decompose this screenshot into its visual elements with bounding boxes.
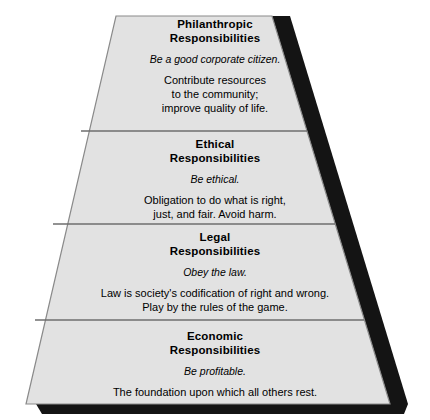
- tier-ethical-tagline: Be ethical.: [0, 173, 430, 186]
- tier-legal-detail-line2: Play by the rules of the game.: [142, 301, 288, 313]
- tier-economic-title: Economic Responsibilities: [0, 330, 430, 357]
- tier-legal-tagline: Obey the law.: [0, 266, 430, 279]
- tier-ethical-title-line1: Ethical: [196, 138, 235, 150]
- tier-philanthropic-detail-line1: Contribute resources: [164, 74, 266, 86]
- tier-philanthropic-detail: Contribute resources to the community; i…: [0, 73, 430, 115]
- tier-legal-title: Legal Responsibilities: [0, 231, 430, 258]
- tier-philanthropic-detail-line2: to the community;: [172, 88, 259, 100]
- tier-legal-detail: Law is society's codification of right a…: [0, 286, 430, 314]
- tier-ethical-title-line2: Responsibilities: [170, 152, 261, 164]
- pyramid-tier-labels: Philanthropic Responsibilities Be a good…: [0, 0, 430, 420]
- tier-ethical-detail-line1: Obligation to do what is right,: [144, 194, 286, 206]
- pyramid-base-shadow: [36, 404, 408, 414]
- tier-ethical-detail: Obligation to do what is right, just, an…: [0, 193, 430, 221]
- tier-philanthropic[interactable]: Philanthropic Responsibilities Be a good…: [0, 18, 430, 115]
- pyramid-diagram: Philanthropic Responsibilities Be a good…: [0, 0, 430, 420]
- tier-economic-detail-line1: The foundation upon which all others res…: [113, 386, 317, 398]
- tier-economic-title-line1: Economic: [187, 330, 243, 342]
- tier-philanthropic-detail-line3: improve quality of life.: [162, 102, 268, 114]
- tier-economic-title-line2: Responsibilities: [170, 344, 261, 356]
- tier-ethical-detail-line2: just, and fair. Avoid harm.: [153, 208, 276, 220]
- tier-legal-title-line2: Responsibilities: [170, 245, 261, 257]
- tier-economic-tagline: Be profitable.: [0, 365, 430, 378]
- tier-philanthropic-title: Philanthropic Responsibilities: [0, 18, 430, 45]
- tier-ethical[interactable]: Ethical Responsibilities Be ethical. Obl…: [0, 138, 430, 221]
- tier-legal-detail-line1: Law is society's codification of right a…: [101, 287, 329, 299]
- tier-economic[interactable]: Economic Responsibilities Be profitable.…: [0, 330, 430, 399]
- tier-philanthropic-title-line1: Philanthropic: [177, 18, 252, 30]
- tier-ethical-title: Ethical Responsibilities: [0, 138, 430, 165]
- tier-philanthropic-title-line2: Responsibilities: [170, 32, 261, 44]
- tier-legal[interactable]: Legal Responsibilities Obey the law. Law…: [0, 231, 430, 314]
- tier-economic-detail: The foundation upon which all others res…: [0, 385, 430, 399]
- tier-philanthropic-tagline: Be a good corporate citizen.: [0, 53, 430, 66]
- tier-legal-title-line1: Legal: [200, 231, 231, 243]
